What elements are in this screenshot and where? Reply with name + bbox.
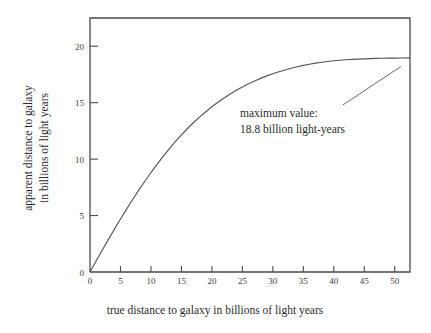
y-tick-label: 10 [75,155,85,165]
x-tick-label: 10 [146,276,156,286]
y-axis-title-line-1: apparent distance to galaxy [22,85,35,211]
x-tick-label: 45 [360,276,370,286]
chart-figure: 05101520253035404550 05101520 maximum va… [0,0,431,333]
x-tick-label: 40 [329,276,339,286]
x-axis-title: true distance to galaxy in billions of l… [107,304,324,317]
annotation-line-2: 18.8 billion light-years [240,123,346,136]
y-tick-label: 20 [75,42,85,52]
x-tick-label: 15 [177,276,187,286]
galaxy-distance-line-chart: 05101520253035404550 05101520 maximum va… [0,0,431,333]
annotation-line-1: maximum value: [240,107,318,119]
y-tick-label: 15 [75,98,85,108]
x-tick-label: 5 [118,276,123,286]
x-tick-label: 35 [299,276,309,286]
x-tick-label: 30 [268,276,278,286]
x-tick-label: 20 [207,276,217,286]
x-tick-label: 0 [88,276,93,286]
y-axis-title-line-2: in billions of light years [38,93,51,203]
x-tick-label: 50 [390,276,400,286]
y-tick-label: 0 [80,268,85,278]
x-tick-label: 25 [238,276,248,286]
y-tick-label: 5 [80,211,85,221]
